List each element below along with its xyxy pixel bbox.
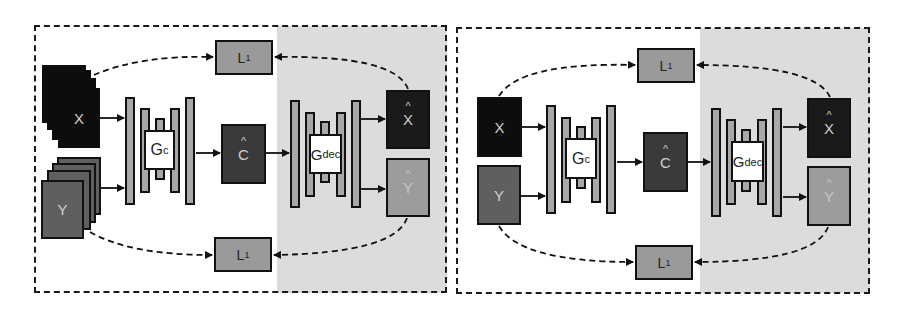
left-panel-arrows: [90, 57, 408, 255]
connector-overlay: [0, 0, 903, 309]
right-panel-arrows: [499, 65, 830, 262]
